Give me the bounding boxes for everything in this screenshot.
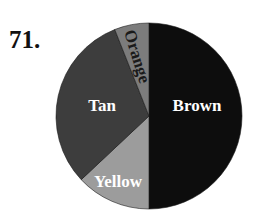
pie-chart: Brown Yellow Tan Orange [0, 0, 266, 221]
slice-label-brown: Brown [173, 96, 222, 115]
pie-slice-brown [149, 23, 242, 209]
slice-label-tan: Tan [88, 96, 116, 115]
pie-slices [56, 23, 242, 209]
slice-label-yellow: Yellow [94, 172, 143, 191]
